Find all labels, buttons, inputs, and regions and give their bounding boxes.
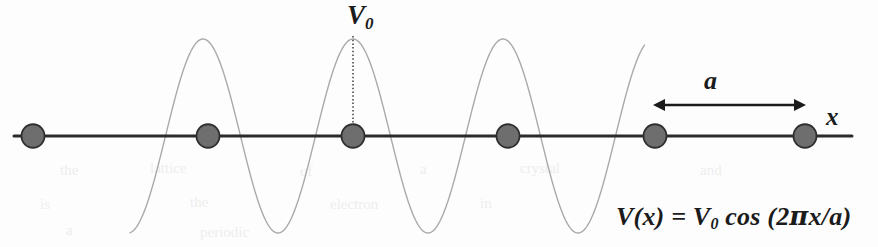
atom-4 — [497, 124, 520, 147]
formula-rhs-close: x/a) — [809, 202, 852, 231]
potential-formula: V(x) = V0 cos (2πx/a) — [616, 203, 851, 232]
amplitude-label: V0 — [347, 2, 374, 32]
pi-symbol: π — [789, 201, 808, 231]
lattice-constant-label: a — [704, 68, 717, 94]
atom-6 — [794, 124, 817, 147]
formula-lhs: V(x) = V — [616, 202, 710, 231]
atom-1 — [22, 124, 45, 147]
amplitude-subscript: 0 — [365, 14, 374, 33]
lattice-constant-arrow — [653, 99, 806, 111]
x-axis-label: x — [826, 104, 839, 129]
atom-2 — [197, 124, 220, 147]
atom-3 — [342, 124, 365, 147]
lattice-potential-figure: thelatticeofacrystalandistheelectroninap… — [0, 0, 878, 247]
formula-rhs-open: cos (2 — [719, 202, 790, 231]
amplitude-symbol: V — [347, 0, 365, 30]
atom-5 — [644, 124, 667, 147]
formula-subscript: 0 — [710, 215, 718, 232]
